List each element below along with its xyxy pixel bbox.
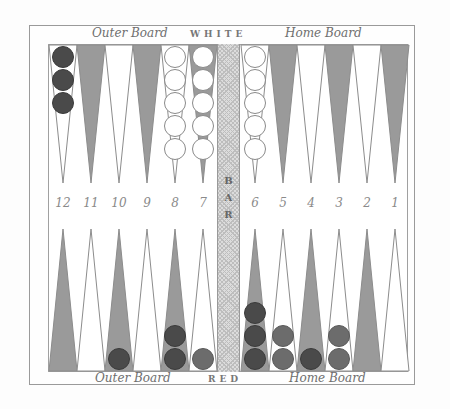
point-number-label: 2	[357, 196, 377, 210]
bar-letter-a: A	[218, 191, 239, 204]
red-checker[interactable]	[108, 348, 130, 370]
white-checker[interactable]	[192, 115, 214, 137]
point-top-11[interactable]	[77, 45, 105, 183]
red-checker[interactable]	[52, 69, 74, 91]
bottom-left-outer-board-label: Outer Board	[95, 371, 171, 385]
red-checker[interactable]	[192, 348, 214, 370]
red-checker[interactable]	[164, 348, 186, 370]
red-checker[interactable]	[272, 325, 294, 347]
point-top-3[interactable]	[325, 45, 353, 183]
bar[interactable]: B A R	[217, 44, 240, 372]
red-checker[interactable]	[244, 325, 266, 347]
white-checker[interactable]	[192, 46, 214, 68]
point-bottom-1[interactable]	[381, 229, 409, 371]
point-top-1[interactable]	[381, 45, 409, 183]
bar-letter-b: B	[218, 174, 239, 187]
point-number-label: 5	[273, 196, 293, 210]
red-side-label: RED	[208, 374, 242, 384]
white-checker[interactable]	[192, 92, 214, 114]
red-checker[interactable]	[272, 348, 294, 370]
point-top-2[interactable]	[353, 45, 381, 183]
white-checker[interactable]	[164, 115, 186, 137]
point-bottom-11[interactable]	[77, 229, 105, 371]
point-number-label: 8	[165, 196, 185, 210]
point-top-10[interactable]	[105, 45, 133, 183]
white-checker[interactable]	[192, 69, 214, 91]
red-checker[interactable]	[52, 92, 74, 114]
point-number-label: 9	[137, 196, 157, 210]
red-checker[interactable]	[244, 348, 266, 370]
point-number-label: 6	[245, 196, 265, 210]
point-bottom-12[interactable]	[49, 229, 77, 371]
red-checker[interactable]	[244, 302, 266, 324]
point-number-label: 10	[109, 196, 129, 210]
bottom-right-home-board-label: Home Board	[289, 371, 366, 385]
white-checker[interactable]	[244, 69, 266, 91]
red-checker[interactable]	[52, 46, 74, 68]
point-top-4[interactable]	[297, 45, 325, 183]
red-checker[interactable]	[300, 348, 322, 370]
white-checker[interactable]	[244, 92, 266, 114]
white-checker[interactable]	[164, 92, 186, 114]
white-checker[interactable]	[244, 115, 266, 137]
point-number-label: 1	[385, 196, 405, 210]
white-checker[interactable]	[244, 138, 266, 160]
white-checker[interactable]	[164, 138, 186, 160]
white-checker[interactable]	[164, 69, 186, 91]
red-checker[interactable]	[328, 325, 350, 347]
point-number-label: 4	[301, 196, 321, 210]
point-number-label: 7	[193, 196, 213, 210]
point-number-label: 11	[81, 196, 101, 210]
white-checker[interactable]	[244, 46, 266, 68]
point-bottom-9[interactable]	[133, 229, 161, 371]
bar-letter-r: R	[218, 208, 239, 221]
white-checker[interactable]	[192, 138, 214, 160]
white-checker[interactable]	[164, 46, 186, 68]
point-bottom-2[interactable]	[353, 229, 381, 371]
point-top-5[interactable]	[269, 45, 297, 183]
point-top-9[interactable]	[133, 45, 161, 183]
red-checker[interactable]	[328, 348, 350, 370]
red-checker[interactable]	[164, 325, 186, 347]
point-number-label: 12	[53, 196, 73, 210]
point-number-label: 3	[329, 196, 349, 210]
